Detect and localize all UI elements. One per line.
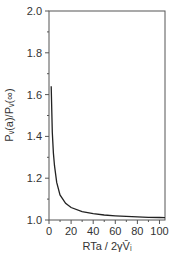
plot-frame (49, 11, 165, 220)
x-tick-label: 0 (46, 225, 52, 237)
y-tick-label: 1.8 (27, 47, 42, 59)
x-tick-label: 80 (131, 225, 143, 237)
y-tick-label: 2.0 (27, 5, 42, 17)
x-axis-label: RTa / 2γV̄ᵢ (82, 240, 131, 252)
x-tick-label: 100 (150, 225, 168, 237)
y-tick-label: 1.0 (27, 214, 42, 226)
y-axis-label: Pᵥ(a)/Pᵥ(∞) (3, 88, 15, 141)
x-tick-label: 20 (65, 225, 77, 237)
y-tick-label: 1.4 (27, 130, 42, 142)
x-tick-label: 60 (109, 225, 121, 237)
y-axis: 1.01.21.41.61.82.0 (27, 5, 49, 226)
y-tick-label: 1.6 (27, 89, 42, 101)
y-tick-label: 1.2 (27, 172, 42, 184)
data-line (51, 86, 165, 218)
chart: 1.01.21.41.61.82.0 020406080100 RTa / 2γ… (0, 0, 174, 263)
x-axis: 020406080100 (46, 220, 169, 237)
x-tick-label: 40 (87, 225, 99, 237)
